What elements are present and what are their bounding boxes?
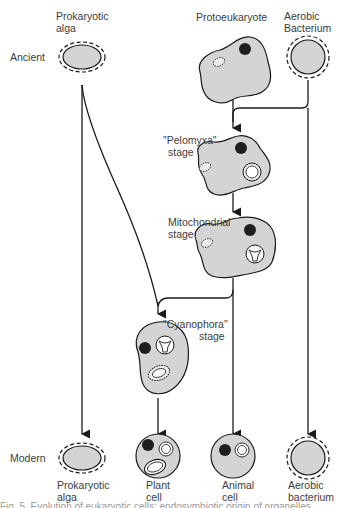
nucleus-icon: [235, 142, 247, 154]
animal-cell: [211, 434, 255, 478]
label-line: Animal: [222, 479, 254, 491]
figure-caption: Fig. 5. Evolution of eukaryotic cells: e…: [0, 501, 346, 508]
label-line: "Cyanophora": [163, 318, 228, 330]
plant-cell: [136, 434, 180, 478]
label-top-prokaryotic-alga: Prokaryoticalga: [56, 10, 109, 34]
ancient-prokaryotic-alga: [59, 42, 105, 72]
endosymbiosis-diagram: [0, 0, 346, 508]
row-label-ancient: Ancient: [10, 51, 45, 63]
label-animal-cell: Animalcell: [222, 479, 254, 503]
label-line: stage: [163, 146, 194, 158]
ancient-aerobic-bacterium: [287, 36, 329, 78]
label-line: stage: [168, 228, 194, 240]
label-line: Bacterium: [284, 22, 331, 34]
label-line: Aerobic: [288, 479, 324, 491]
label-bottom-aerobic-bacterium: Aerobicbacterium: [288, 479, 334, 503]
nucleus-icon: [139, 342, 151, 354]
nucleus-icon: [219, 444, 231, 456]
label-mitochondrial-stage: Mitochondrialstage: [168, 216, 230, 240]
label-line: Aerobic: [284, 10, 320, 22]
modern-aerobic-bacterium: [287, 437, 329, 479]
label-line: alga: [56, 22, 76, 34]
nucleus-icon: [244, 224, 256, 236]
label-line: Plant: [146, 479, 170, 491]
row-label-modern: Modern: [10, 452, 46, 464]
label-line: Mitochondrial: [168, 216, 230, 228]
label-plant-cell: Plantcell: [146, 479, 170, 503]
label-line: Prokaryotic: [57, 479, 110, 491]
label-bottom-prokaryotic-alga: Prokaryoticalga: [57, 479, 110, 503]
label-protoeukaryote: Protoeukaryote: [196, 11, 267, 23]
protoeukaryote-cell: [199, 37, 270, 103]
label-pelomyxa-stage: "Pelomyxa"stage: [163, 134, 217, 158]
label-top-aerobic-bacterium: AerobicBacterium: [284, 10, 331, 34]
nucleus-icon: [142, 439, 154, 451]
label-line: "Pelomyxa": [163, 134, 217, 146]
modern-prokaryotic-alga: [59, 443, 105, 473]
label-line: Prokaryotic: [56, 10, 109, 22]
nucleus-icon: [239, 43, 251, 55]
label-cyanophora-stage: "Cyanophora"stage: [163, 318, 228, 342]
label-line: stage: [163, 330, 225, 342]
